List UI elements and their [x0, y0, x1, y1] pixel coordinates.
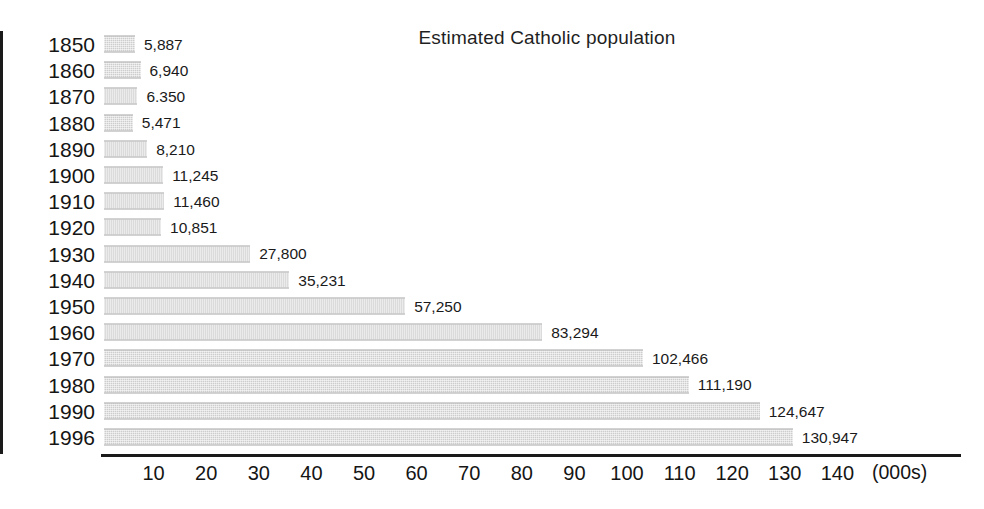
row-year-label: 1990 — [0, 400, 95, 421]
row-year-label: 1970 — [0, 348, 95, 369]
x-axis-tick-140: 140 — [821, 463, 854, 483]
bar-group: 57,250 — [104, 298, 462, 315]
chart-row: 18706.350 — [0, 83, 984, 109]
row-year-label: 1950 — [0, 296, 95, 317]
row-year-label: 1930 — [0, 243, 95, 264]
bar-group: 11,245 — [104, 167, 218, 184]
chart-row: 195057,250 — [0, 293, 984, 319]
bar — [104, 140, 147, 157]
x-axis-tick-80: 80 — [511, 463, 533, 483]
bar-value-label: 57,250 — [414, 298, 461, 314]
chart-row: 1980111,190 — [0, 372, 984, 398]
bar-value-label: 102,466 — [652, 351, 708, 367]
bar-value-label: 35,231 — [298, 272, 345, 288]
bar — [104, 324, 542, 341]
chart-row: 190011,245 — [0, 162, 984, 188]
bar-group: 5,471 — [104, 114, 181, 131]
bar-group: 8,210 — [104, 140, 195, 157]
row-year-label: 1910 — [0, 191, 95, 212]
bar — [104, 193, 164, 210]
bar-group: 6,940 — [104, 62, 188, 79]
bar — [104, 114, 133, 131]
bar-value-label: 11,245 — [172, 167, 218, 183]
bar-group: 10,851 — [104, 219, 217, 236]
row-year-label: 1890 — [0, 138, 95, 159]
bar-group: 11,460 — [104, 193, 220, 210]
bar — [104, 350, 643, 367]
bar-value-label: 130,947 — [802, 429, 858, 445]
bar-group: 6.350 — [104, 88, 185, 105]
x-axis-tick-60: 60 — [405, 463, 427, 483]
chart-row: 191011,460 — [0, 188, 984, 214]
bar-value-label: 11,460 — [173, 194, 219, 210]
row-year-label: 1940 — [0, 269, 95, 290]
row-year-label: 1900 — [0, 165, 95, 186]
bar-group: 35,231 — [104, 271, 346, 288]
x-axis-tick-100: 100 — [610, 463, 643, 483]
bar-group: 83,294 — [104, 324, 599, 341]
x-axis-tick-labels: (000s) 102030405060708090100110120130140 — [0, 463, 984, 493]
x-axis-tick-120: 120 — [716, 463, 749, 483]
chart-row: 18805,471 — [0, 110, 984, 136]
row-year-label: 1996 — [0, 427, 95, 448]
bar — [104, 402, 760, 419]
bar-value-label: 5,471 — [142, 115, 181, 131]
bar-value-label: 124,647 — [769, 403, 825, 419]
chart-row: 18606,940 — [0, 57, 984, 83]
row-year-label: 1920 — [0, 217, 95, 238]
chart-row: 1996130,947 — [0, 424, 984, 450]
bar-value-label: 6.350 — [146, 89, 185, 105]
row-year-label: 1880 — [0, 112, 95, 133]
bar — [104, 219, 161, 236]
chart-row: 193027,800 — [0, 241, 984, 267]
bar-chart: Estimated Catholic population (000s) 102… — [0, 0, 984, 509]
bar-group: 5,887 — [104, 36, 183, 53]
x-axis-tick-20: 20 — [195, 463, 217, 483]
x-axis-tick-130: 130 — [768, 463, 801, 483]
x-axis-line — [101, 454, 961, 457]
x-axis-tick-110: 110 — [664, 463, 696, 483]
bar-group: 124,647 — [104, 402, 825, 419]
bar-value-label: 5,887 — [144, 36, 183, 52]
x-axis-tick-90: 90 — [563, 463, 585, 483]
bar-group: 27,800 — [104, 245, 307, 262]
bar — [104, 62, 141, 79]
bar-value-label: 6,940 — [150, 63, 189, 79]
bar — [104, 167, 163, 184]
row-year-label: 1860 — [0, 60, 95, 81]
row-year-label: 1870 — [0, 86, 95, 107]
chart-row: 196083,294 — [0, 319, 984, 345]
row-year-label: 1980 — [0, 374, 95, 395]
chart-row: 18505,887 — [0, 31, 984, 57]
x-axis-unit-label: (000s) — [872, 463, 927, 483]
bar — [104, 88, 137, 105]
bar — [104, 298, 405, 315]
x-axis-tick-30: 30 — [248, 463, 270, 483]
chart-row: 194035,231 — [0, 267, 984, 293]
bar — [104, 245, 250, 262]
bar-value-label: 111,190 — [698, 377, 752, 393]
bar — [104, 376, 689, 393]
chart-row: 1990124,647 — [0, 398, 984, 424]
chart-row: 1970102,466 — [0, 345, 984, 371]
chart-row: 192010,851 — [0, 214, 984, 240]
bar — [104, 36, 135, 53]
bar-group: 130,947 — [104, 429, 858, 446]
bar-value-label: 27,800 — [259, 246, 306, 262]
bar-group: 102,466 — [104, 350, 708, 367]
x-axis-tick-10: 10 — [142, 463, 164, 483]
row-year-label: 1850 — [0, 34, 95, 55]
x-axis-tick-40: 40 — [300, 463, 322, 483]
chart-row: 18908,210 — [0, 136, 984, 162]
row-year-label: 1960 — [0, 322, 95, 343]
bar-value-label: 83,294 — [551, 325, 598, 341]
bar-value-label: 10,851 — [170, 220, 217, 236]
bar — [104, 429, 793, 446]
bar — [104, 271, 289, 288]
x-axis-tick-70: 70 — [458, 463, 480, 483]
bar-value-label: 8,210 — [156, 141, 195, 157]
x-axis-tick-50: 50 — [353, 463, 375, 483]
bar-group: 111,190 — [104, 376, 752, 393]
